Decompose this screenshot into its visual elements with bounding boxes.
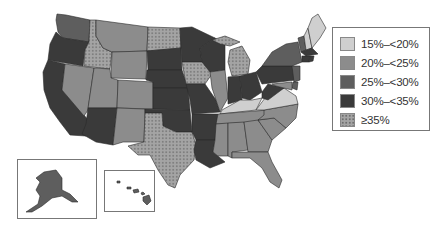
- alaska-inset: [17, 159, 97, 219]
- state-de: [292, 82, 298, 90]
- legend-swatch: [340, 113, 355, 127]
- hawaii-shape: [105, 171, 154, 211]
- legend-label: 15%–<20%: [361, 38, 419, 50]
- alaska-shape: [18, 160, 96, 218]
- legend: 15%–<20% 20%–<25% 25%–<30% 30%–<35% ≥35%: [332, 27, 430, 131]
- state-ar: [192, 114, 218, 140]
- state-nd: [147, 27, 181, 51]
- legend-item-25-30: 25%–<30%: [340, 75, 419, 89]
- state-wy: [111, 51, 147, 79]
- state-mt: [96, 20, 148, 52]
- legend-item-30-35: 30%–<35%: [340, 94, 419, 108]
- legend-swatch: [340, 75, 355, 89]
- state-ri: [309, 56, 314, 62]
- legend-swatch: [340, 56, 355, 70]
- hawaii-inset: [104, 170, 155, 212]
- state-sd: [147, 48, 182, 70]
- legend-label: 25%–<30%: [361, 76, 419, 88]
- state-pa: [256, 66, 296, 84]
- state-ny: [262, 42, 302, 66]
- state-fl: [232, 152, 282, 188]
- legend-swatch: [340, 94, 355, 108]
- legend-label: ≥35%: [361, 114, 390, 126]
- state-ks: [153, 88, 190, 110]
- legend-swatch: [340, 37, 355, 51]
- state-az: [82, 108, 117, 145]
- state-co: [117, 80, 153, 109]
- legend-item-35-plus: ≥35%: [340, 113, 390, 127]
- state-mi: [228, 46, 250, 76]
- legend-label: 30%–<35%: [361, 95, 419, 107]
- state-ct: [302, 56, 310, 62]
- legend-label: 20%–<25%: [361, 57, 419, 69]
- state-me: [308, 14, 326, 48]
- legend-item-20-25: 20%–<25%: [340, 56, 419, 70]
- legend-item-15-20: 15%–<20%: [340, 37, 419, 51]
- state-nm: [113, 108, 145, 145]
